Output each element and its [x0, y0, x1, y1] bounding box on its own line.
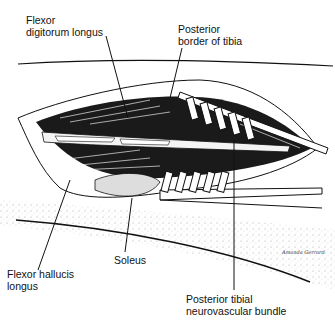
soleus-muscle	[95, 173, 160, 196]
label-soleus: Soleus	[114, 254, 146, 266]
lower-retractor	[160, 171, 322, 208]
leader-ptb	[170, 48, 182, 98]
label-flexor-digitorum-longus: Flexor digitorum longus	[26, 14, 103, 38]
label-posterior-tibial-neurovascular-bundle: Posterior tibial neurovascular bundle	[186, 293, 286, 317]
label-flexor-hallucis-longus: Flexor hallucis longus	[7, 268, 74, 292]
leg-outline-top	[18, 60, 333, 66]
label-posterior-border-of-tibia: Posterior border of tibia	[178, 23, 242, 47]
artist-signature: Amanda Gerrard	[282, 249, 325, 255]
